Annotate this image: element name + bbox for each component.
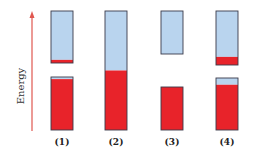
single-band-empty-segment xyxy=(105,11,127,71)
column-4 xyxy=(216,11,238,130)
band-diagram: Energy (1) (2) (3) (4) xyxy=(0,0,258,153)
energy-axis: Energy xyxy=(15,11,35,131)
band-columns xyxy=(51,11,238,130)
lower-band-filled-segment xyxy=(161,87,183,130)
lower-band-filled-segment xyxy=(216,85,238,130)
column-3 xyxy=(161,11,183,130)
column-label: (2) xyxy=(109,137,124,147)
upper-band-empty-segment xyxy=(161,11,183,54)
column-label: (3) xyxy=(165,137,180,147)
upper-band-empty-segment xyxy=(51,11,73,60)
upper-band-filled-segment xyxy=(216,57,238,65)
single-band-filled-segment xyxy=(105,71,127,131)
lower-band-filled-segment xyxy=(51,79,73,130)
column-2 xyxy=(105,11,127,130)
column-label: (1) xyxy=(55,137,70,147)
energy-axis-label: Energy xyxy=(15,67,26,104)
column-label: (4) xyxy=(220,137,235,147)
upper-band-filled-segment xyxy=(51,60,73,63)
energy-arrow-head-icon xyxy=(30,11,35,18)
column-1 xyxy=(51,11,73,130)
lower-band-empty-segment xyxy=(216,78,238,85)
column-labels: (1) (2) (3) (4) xyxy=(55,137,235,147)
upper-band-empty-segment xyxy=(216,11,238,57)
